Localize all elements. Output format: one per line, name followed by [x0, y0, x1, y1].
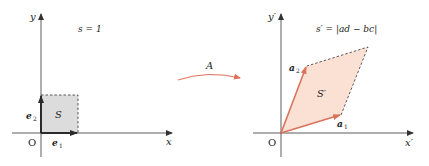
linear-transform-diagram: y x O S s = 1 e 1 e 2 A y′ x′ O S′ s′ = …	[0, 0, 429, 166]
formula-s-prime: s′ = |ad − bc|	[316, 24, 377, 35]
transform-label: A	[205, 60, 213, 71]
svg-text:a: a	[289, 63, 295, 73]
svg-text:1: 1	[59, 142, 63, 149]
origin-label: O	[28, 137, 36, 148]
svg-text:e: e	[26, 111, 32, 121]
a2-label: a 2	[289, 63, 300, 74]
svg-text:2: 2	[296, 67, 300, 74]
transform-arrow: A	[178, 60, 240, 80]
y-axis-label: y	[29, 11, 36, 22]
svg-text:2: 2	[33, 115, 37, 122]
origin-prime-label: O	[268, 137, 276, 148]
svg-text:1: 1	[344, 123, 348, 130]
e1-label: e 1	[52, 138, 63, 149]
area-label-s: S	[55, 109, 62, 120]
a1-label: a 1	[337, 119, 348, 130]
curved-arrow-icon	[178, 74, 240, 80]
y-prime-axis-label: y′	[267, 11, 277, 22]
e2-label: e 2	[26, 111, 37, 122]
svg-text:a: a	[337, 119, 343, 129]
x-prime-axis-label: x′	[405, 137, 414, 148]
transformed-plane: y′ x′ O S′ s′ = |ad − bc| a 1 a 2	[253, 11, 414, 157]
formula-s: s = 1	[78, 24, 102, 34]
x-axis-label: x	[166, 136, 172, 147]
area-label-s-prime: S′	[317, 88, 327, 99]
svg-text:e: e	[52, 138, 58, 148]
original-plane: y x O S s = 1 e 1 e 2	[12, 11, 172, 157]
